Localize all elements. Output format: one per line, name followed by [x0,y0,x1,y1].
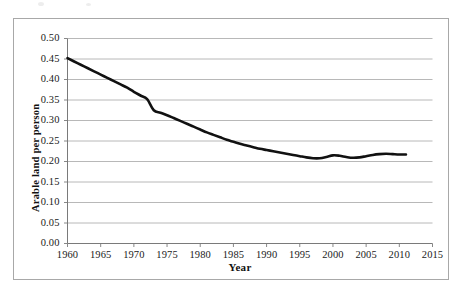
data-line-series-0 [68,58,406,158]
x-axis-title: Year [180,261,300,273]
y-tick-label: 0.00 [30,237,60,248]
y-tick-label: 0.05 [30,217,60,228]
y-tick-label: 0.45 [30,53,60,64]
x-tick-label: 2015 [413,249,453,260]
gridlines [68,39,433,224]
y-tick-label: 0.50 [30,32,60,43]
x-tick-marks [68,244,433,248]
y-tick-marks [64,39,68,244]
chart-figure: 0.000.050.100.150.200.250.300.350.400.45… [0,0,462,296]
y-axis-title: Arable land per person [30,104,41,212]
y-tick-label: 0.40 [30,73,60,84]
